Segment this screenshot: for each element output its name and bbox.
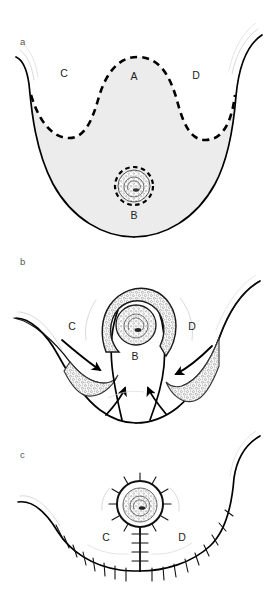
panel-b-letter: b — [20, 256, 25, 267]
panel-a-letter: a — [20, 36, 26, 47]
panel-c-sutures-right — [152, 510, 233, 581]
panel-c-left-hint — [20, 496, 60, 526]
panel-a-right-hint-1 — [232, 29, 258, 74]
arrow-inferior-right — [148, 388, 166, 414]
panel-c-nipple-areola — [109, 473, 171, 535]
panel-b: b — [14, 256, 260, 423]
panel-a-nipple-tip — [133, 188, 139, 191]
panel-a: a C A D B — [16, 23, 262, 237]
panel-a-label-b: B — [130, 209, 137, 221]
panel-b-flap-c-dermis — [64, 362, 118, 396]
panel-b-motion-hint-bottom — [108, 391, 144, 398]
panel-c-hint-nac-left — [102, 488, 110, 510]
panel-b-flap-c-upper — [14, 318, 106, 383]
panel-c-hint-nac-right — [170, 488, 179, 511]
panel-b-label-b: B — [131, 350, 138, 362]
panel-c-sutures-left — [56, 525, 126, 581]
panel-b-motion-hint-left — [85, 300, 96, 340]
panel-c-nipple-tip — [139, 506, 145, 510]
panel-b-flap-d-upper — [182, 282, 258, 386]
panel-b-areola — [116, 305, 156, 345]
panel-c-letter: c — [20, 449, 25, 460]
panel-b-label-c: C — [68, 320, 76, 332]
panel-a-label-a: A — [130, 70, 137, 82]
panel-c-areola — [123, 488, 157, 522]
panel-c-label-c: C — [102, 531, 110, 543]
panel-c-hint-breast-left — [88, 545, 128, 554]
panel-a-label-c: C — [60, 67, 68, 79]
figure-container: a C A D B b — [0, 0, 276, 589]
panel-b-nipple-areola — [116, 305, 156, 345]
panel-b-label-d: D — [188, 320, 196, 332]
panel-b-motion-hint-right — [180, 298, 193, 340]
panel-b-nipple-tip — [135, 328, 142, 332]
panel-c: c — [18, 431, 260, 581]
panel-c-hint-breast-right — [152, 543, 192, 554]
panel-a-label-d: D — [192, 69, 200, 81]
panel-c-label-d: D — [178, 531, 186, 543]
surgical-illustration: a C A D B b — [0, 0, 276, 589]
